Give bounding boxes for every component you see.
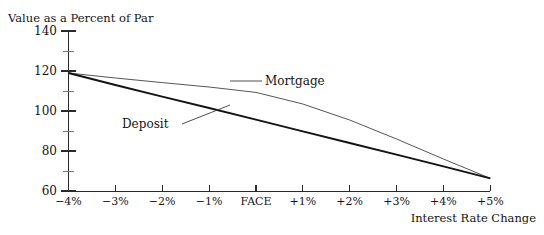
line-chart-canvas: Value as a Percent of Par 140 120 100 80… — [0, 0, 544, 235]
x-tick-label-pos1: +1% — [289, 195, 316, 208]
y-tick-label-80: 80 — [42, 144, 57, 158]
x-tick-label-pos4: +4% — [430, 195, 457, 208]
x-tick-label-neg4: −4% — [55, 195, 82, 208]
x-tick-label-neg1: −1% — [196, 195, 223, 208]
y-tick-label-100: 100 — [34, 104, 57, 118]
x-tick-label-pos5: +5% — [477, 195, 504, 208]
x-tick-label-face: FACE — [240, 195, 271, 208]
x-tick-label-neg3: −3% — [102, 195, 129, 208]
series-label-deposit: Deposit — [122, 117, 169, 131]
x-tick-label-pos3: +3% — [383, 195, 410, 208]
y-axis-title: Value as a Percent of Par — [7, 11, 154, 25]
chart-figure: Value as a Percent of Par 140 120 100 80… — [0, 0, 544, 235]
series-label-mortgage: Mortgage — [265, 74, 325, 88]
y-tick-label-140: 140 — [34, 24, 57, 38]
y-tick-label-120: 120 — [34, 64, 57, 78]
x-tick-label-neg2: −2% — [149, 195, 176, 208]
x-tick-label-pos2: +2% — [336, 195, 363, 208]
x-axis-title: Interest Rate Change — [411, 211, 537, 225]
